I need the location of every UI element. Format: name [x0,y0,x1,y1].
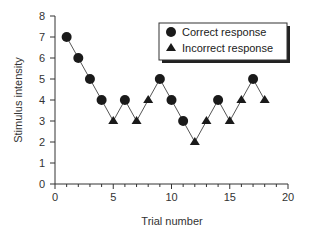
x-tick-label: 0 [52,191,58,203]
incorrect-response-marker [260,95,270,103]
y-tick-label: 2 [39,136,45,148]
y-tick-label: 6 [39,52,45,64]
y-tick-label: 1 [39,157,45,169]
incorrect-response-marker [132,116,142,124]
correct-response-marker [155,74,165,84]
incorrect-response-marker [190,137,200,145]
legend-circle-icon [166,27,176,37]
x-tick-label: 15 [224,191,236,203]
y-tick-label: 8 [39,10,45,22]
correct-response-marker [248,74,258,84]
correct-response-marker [73,53,83,63]
incorrect-response-marker [108,116,118,124]
y-axis: 012345678 [39,10,55,190]
correct-response-marker [97,95,107,105]
x-tick-label: 10 [165,191,177,203]
correct-response-marker [178,116,188,126]
x-axis: 05101520 [52,184,294,203]
x-tick-label: 5 [110,191,116,203]
y-tick-label: 5 [39,73,45,85]
incorrect-response-marker [236,95,246,103]
correct-response-marker [62,32,72,42]
incorrect-response-marker [143,95,153,103]
legend: Correct response Incorrect response [159,23,290,63]
legend-label-incorrect: Incorrect response [182,42,273,54]
legend-label-correct: Correct response [182,26,266,38]
correct-response-marker [213,95,223,105]
y-tick-label: 0 [39,178,45,190]
correct-response-marker [120,95,130,105]
y-tick-label: 7 [39,31,45,43]
x-axis-title: Trial number [141,215,203,227]
y-tick-label: 4 [39,94,45,106]
correct-response-marker [85,74,95,84]
x-tick-label: 20 [282,191,294,203]
y-tick-label: 3 [39,115,45,127]
staircase-chart: 012345678 05101520 Stimulus intensity Tr… [0,0,309,237]
y-axis-title: Stimulus intensity [12,57,24,143]
correct-response-marker [167,95,177,105]
incorrect-response-marker [225,116,235,124]
incorrect-response-marker [201,116,211,124]
